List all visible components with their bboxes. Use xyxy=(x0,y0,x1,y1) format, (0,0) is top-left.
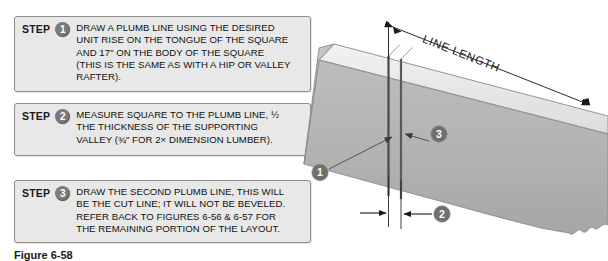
callout-1-number: 1 xyxy=(317,166,323,178)
callout-2-number: 2 xyxy=(439,208,445,220)
step-label-1: STEP xyxy=(22,23,50,35)
step-text-3: DRAW THE SECOND PLUMB LINE, THIS WILL BE… xyxy=(76,186,304,235)
figure-caption: Figure 6-58 xyxy=(14,249,73,261)
line-length-label: LINE LENGTH xyxy=(421,33,502,74)
step-number-badge-2: 2 xyxy=(55,109,70,124)
step-box-1: STEP 1 DRAW A PLUMB LINE USING THE DESIR… xyxy=(14,16,311,92)
step-text-2: MEASURE SQUARE TO THE PLUMB LINE, ½ THE … xyxy=(76,109,304,146)
step-number-badge-1: 1 xyxy=(55,22,70,37)
dimension-arrow-right xyxy=(581,98,590,105)
step-box-2: STEP 2 MEASURE SQUARE TO THE PLUMB LINE,… xyxy=(14,103,311,156)
step-number-badge-3: 3 xyxy=(55,186,70,201)
step-label-2: STEP xyxy=(22,110,50,122)
dimension-arrow-left xyxy=(393,27,402,34)
rafter-board xyxy=(304,44,608,234)
step-box-3: STEP 3 DRAW THE SECOND PLUMB LINE, THIS … xyxy=(14,180,311,243)
callout-3-number: 3 xyxy=(436,128,442,140)
rafter-diagram: LINE LENGTH 1 3 2 xyxy=(300,0,608,258)
top-face-notch xyxy=(389,45,413,60)
step-label-3: STEP xyxy=(22,187,50,199)
step-text-1: DRAW A PLUMB LINE USING THE DESIRED UNIT… xyxy=(76,22,304,83)
